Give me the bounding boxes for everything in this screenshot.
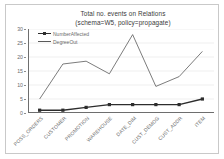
- y-axis-tick-label: 15: [17, 68, 23, 74]
- y-axis-tick-mark: [24, 85, 26, 86]
- chart-legend: NumberAffectedDegreeOut: [38, 30, 100, 46]
- x-axis-tick-label: DATE_DIM: [114, 115, 136, 137]
- y-axis-tick-mark: [24, 113, 26, 114]
- y-axis: 051015202530: [8, 29, 26, 113]
- y-axis-tick-label: 25: [17, 40, 23, 46]
- x-axis-tick-label: ITEM: [194, 115, 207, 128]
- y-axis-tick-mark: [24, 57, 26, 58]
- y-axis-tick-label: 0: [20, 110, 23, 116]
- legend-label: DegreeOut: [53, 39, 77, 45]
- y-axis-tick-mark: [24, 71, 26, 72]
- data-point-marker: [178, 103, 181, 106]
- legend-label: NumberAffected: [53, 31, 89, 37]
- y-axis-tick-mark: [24, 43, 26, 44]
- y-axis-tick-mark: [24, 29, 26, 30]
- y-axis-tick-label: 30: [17, 26, 23, 32]
- data-point-marker: [154, 103, 157, 106]
- x-axis-tick-label: CUST_ADDR: [157, 115, 183, 141]
- data-point-marker: [85, 106, 88, 109]
- data-point-marker: [201, 97, 204, 100]
- legend-item[interactable]: NumberAffected: [38, 30, 100, 37]
- legend-item[interactable]: DegreeOut: [38, 38, 100, 45]
- chart-frame: Total no. events on Relations (schema=W5…: [0, 0, 224, 159]
- legend-swatch-icon: [38, 30, 51, 37]
- y-axis-tick-mark: [24, 99, 26, 100]
- data-point-marker: [108, 103, 111, 106]
- data-point-marker: [131, 103, 134, 106]
- chart-title-line-1: Total no. events on Relations: [28, 9, 218, 18]
- y-axis-tick-label: 5: [20, 96, 23, 102]
- y-axis-tick-label: 10: [17, 82, 23, 88]
- y-axis-line: [28, 29, 29, 113]
- series-group: [38, 35, 204, 112]
- legend-swatch-icon: [38, 38, 51, 45]
- x-axis: POSS_ORDERSCUSTOMERPROMOTIONWAREHOUSEDAT…: [28, 113, 214, 157]
- chart-title: Total no. events on Relations (schema=W5…: [28, 9, 218, 27]
- chart-subtitle-line-2: (schema=W5, policy=propagate): [28, 18, 218, 27]
- y-axis-tick-label: 20: [17, 54, 23, 60]
